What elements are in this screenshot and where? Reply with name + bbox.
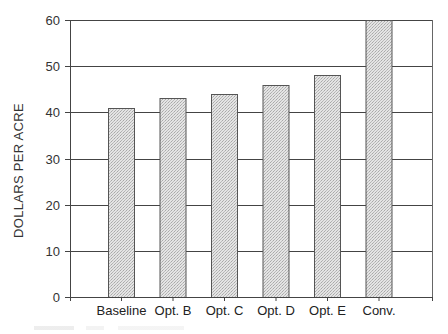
y-tick-label: 40 — [46, 105, 60, 120]
y-tick-label: 10 — [46, 244, 60, 259]
x-tick-label: Opt. B — [155, 303, 192, 318]
bar — [160, 99, 186, 298]
y-tick-label: 60 — [46, 13, 60, 28]
x-tick-label: Baseline — [97, 303, 147, 318]
bar — [315, 76, 341, 298]
figure-caption-cropped — [34, 326, 184, 330]
bar — [263, 86, 289, 298]
bar-chart: 0102030405060 BaselineOpt. BOpt. COpt. D… — [0, 0, 448, 334]
x-tick-label: Opt. E — [309, 303, 346, 318]
x-tick-label: Opt. D — [257, 303, 295, 318]
bar — [109, 109, 135, 298]
bar — [366, 21, 392, 298]
x-tick-labels: BaselineOpt. BOpt. COpt. DOpt. EConv. — [97, 303, 396, 318]
y-tick-label: 20 — [46, 198, 60, 213]
y-tick-label: 0 — [53, 290, 60, 305]
y-tick-label: 50 — [46, 59, 60, 74]
y-tick-labels: 0102030405060 — [46, 13, 60, 305]
x-tick-label: Opt. C — [206, 303, 244, 318]
bar — [212, 95, 238, 298]
y-tick-label: 30 — [46, 152, 60, 167]
x-tick-label: Conv. — [363, 303, 396, 318]
